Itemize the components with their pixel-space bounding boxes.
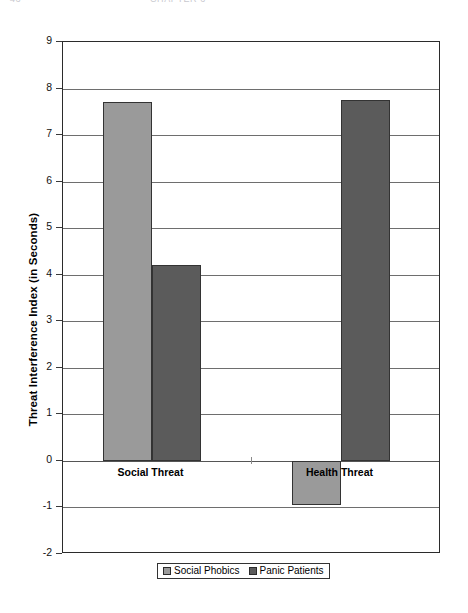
- chart-figure: 46 CHAPTER 6 Threat Interference Index (…: [0, 0, 468, 613]
- y-tick-label: 5: [14, 220, 52, 232]
- y-tick-label: 3: [14, 313, 52, 325]
- y-tick-label: 8: [14, 81, 52, 93]
- page-number: 46: [10, 0, 21, 4]
- y-tick-label: 0: [14, 453, 52, 465]
- gridline: [63, 89, 439, 90]
- bar-social-phobics-social-threat: [103, 102, 152, 461]
- category-label: Health Threat: [270, 466, 410, 478]
- category-label: Social Threat: [81, 466, 221, 478]
- page-header-strip: 46 CHAPTER 6: [0, 0, 468, 6]
- legend-label: Social Phobics: [174, 565, 240, 576]
- gridline: [63, 507, 439, 508]
- legend-swatch-icon: [163, 567, 171, 575]
- y-tick-label: -1: [14, 499, 52, 511]
- legend-label: Panic Patients: [260, 565, 324, 576]
- legend-swatch-icon: [249, 567, 257, 575]
- y-tick-label: 6: [14, 174, 52, 186]
- y-tick-label: 2: [14, 360, 52, 372]
- legend-entry: Panic Patients: [249, 565, 324, 576]
- y-tick-label: 9: [14, 34, 52, 46]
- y-tick-label: 7: [14, 127, 52, 139]
- page-header-title: CHAPTER 6: [150, 0, 206, 4]
- bar-panic-patients-health-threat: [341, 100, 390, 461]
- legend-entry: Social Phobics: [163, 565, 240, 576]
- bar-panic-patients-social-threat: [152, 265, 201, 460]
- chart-legend: Social Phobics Panic Patients: [157, 563, 330, 579]
- y-tick-label: 4: [14, 267, 52, 279]
- y-tick-label: -2: [14, 546, 52, 558]
- y-tick-mark: [56, 553, 62, 554]
- y-tick-label: 1: [14, 406, 52, 418]
- category-axis-tick: [251, 457, 252, 464]
